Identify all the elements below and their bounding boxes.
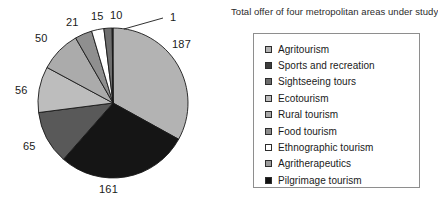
legend-swatch-icon: [265, 128, 272, 135]
legend-item-agritherapeutics[interactable]: Agritherapeutics: [265, 156, 419, 172]
legend-item-label: Ecotourism: [278, 93, 329, 104]
data-label-1: 1: [170, 11, 176, 23]
legend-item-ecotourism[interactable]: Ecotourism: [265, 90, 419, 106]
legend-item-pilgrimage-tourism[interactable]: Pilgrimage tourism: [265, 172, 419, 188]
legend-item-ethnographic-tourism[interactable]: Ethnographic tourism: [265, 139, 419, 155]
data-label-21: 21: [66, 16, 79, 28]
leader-line-slice-1: [124, 18, 163, 29]
pie-plot-area: 187 161 65 56 50 21 15 10 1: [0, 0, 225, 203]
legend-item-rural-tourism[interactable]: Rural tourism: [265, 107, 419, 123]
data-label-10: 10: [110, 9, 123, 21]
pie-chart-figure: 187 161 65 56 50 21 15 10 1 Total offer …: [0, 0, 438, 203]
legend-swatch-icon: [265, 160, 272, 167]
legend-item-label: Pilgrimage tourism: [278, 175, 362, 186]
legend-swatch-icon: [265, 46, 272, 53]
legend-item-label: Agritourism: [278, 44, 329, 55]
legend-swatch-icon: [265, 95, 272, 102]
legend-swatch-icon: [265, 62, 272, 69]
chart-title: Total offer of four metropolitan areas u…: [231, 6, 438, 17]
legend-swatch-icon: [265, 144, 272, 151]
legend-item-food-tourism[interactable]: Food tourism: [265, 123, 419, 139]
legend-box: AgritourismSports and recreationSightsee…: [253, 33, 420, 188]
data-label-187: 187: [172, 38, 191, 50]
legend-swatch-icon: [265, 177, 272, 184]
data-label-161: 161: [99, 183, 118, 195]
data-label-56: 56: [15, 84, 28, 96]
data-label-15: 15: [91, 10, 104, 22]
legend-item-label: Food tourism: [278, 126, 337, 137]
legend-item-label: Rural tourism: [278, 109, 338, 120]
legend-item-label: Agritherapeutics: [278, 158, 351, 169]
legend-swatch-icon: [265, 111, 272, 118]
pie-slices: [38, 28, 188, 178]
legend-item-sightseeing-tours[interactable]: Sightseeing tours: [265, 74, 419, 90]
data-label-50: 50: [35, 32, 48, 44]
legend-panel: Total offer of four metropolitan areas u…: [225, 0, 438, 203]
legend-item-agritourism[interactable]: Agritourism: [265, 41, 419, 57]
data-label-65: 65: [23, 140, 36, 152]
legend-swatch-icon: [265, 78, 272, 85]
legend-item-sports-and-recreation[interactable]: Sports and recreation: [265, 57, 419, 73]
pie-svg: [0, 0, 225, 203]
legend-item-label: Sports and recreation: [278, 60, 375, 71]
legend-item-label: Sightseeing tours: [278, 76, 356, 87]
legend-item-label: Ethnographic tourism: [278, 142, 374, 153]
